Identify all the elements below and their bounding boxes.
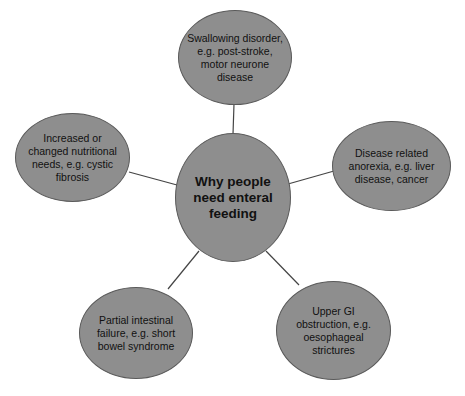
node-label: Disease related anorexia, e.g. liver dis… bbox=[333, 147, 450, 186]
node-label: Swallowing disorder, e.g. post-stroke, m… bbox=[179, 32, 291, 84]
center-node: Why people need enteral feeding bbox=[175, 133, 291, 262]
node-label: Upper GI obstruction, e.g. oesophageal s… bbox=[277, 305, 390, 357]
node-disease-related-anorexia: Disease related anorexia, e.g. liver dis… bbox=[332, 121, 451, 211]
center-label: Why people need enteral feeding bbox=[176, 174, 290, 222]
node-upper-gi-obstruction: Upper GI obstruction, e.g. oesophageal s… bbox=[276, 281, 391, 380]
link-left bbox=[129, 172, 177, 185]
link-bottom-right bbox=[266, 251, 299, 285]
node-partial-intestinal-failure: Partial intestinal failure, e.g. short b… bbox=[79, 287, 193, 379]
link-right bbox=[288, 171, 334, 184]
node-swallowing-disorder: Swallowing disorder, e.g. post-stroke, m… bbox=[178, 10, 292, 105]
node-label: Partial intestinal failure, e.g. short b… bbox=[80, 314, 192, 353]
link-top bbox=[233, 104, 234, 134]
link-bottom-left bbox=[168, 251, 199, 289]
node-label: Increased or changed nutritional needs, … bbox=[16, 132, 129, 184]
node-nutritional-needs: Increased or changed nutritional needs, … bbox=[15, 113, 130, 202]
